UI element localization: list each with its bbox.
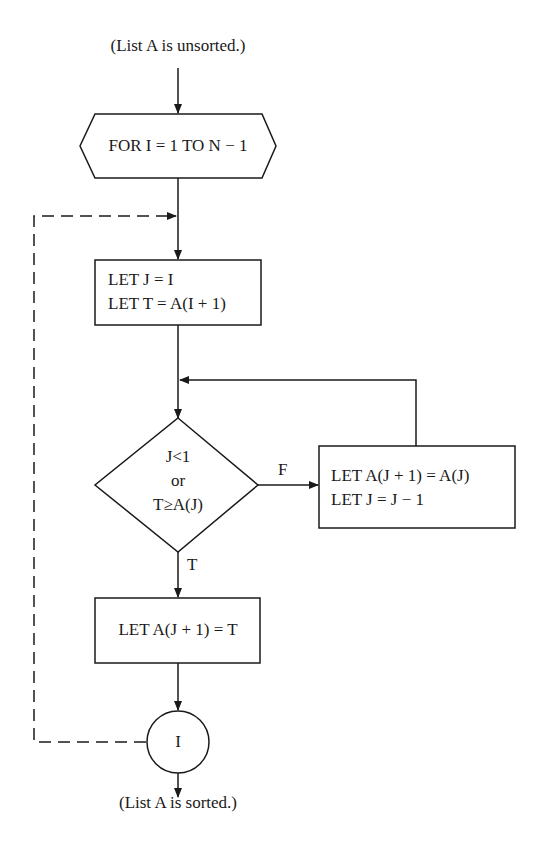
shift-block-rect [319,446,515,528]
insert-line-1: LET A(J + 1) = T [118,620,237,640]
shift-loopback-arrow [180,380,416,446]
start-label: (List A is unsorted.) [110,36,245,56]
flowchart-canvas: (List A is unsorted.) FOR I = 1 TO N − 1… [0,0,546,841]
connector-label: I [175,732,181,752]
shift-line-1: LET A(J + 1) = A(J) [331,466,469,486]
false-label: F [278,460,287,480]
true-label: T [187,555,197,575]
shift-line-2: LET J = J − 1 [331,490,424,510]
end-label: (List A is sorted.) [119,793,237,813]
loop-header-text: FOR I = 1 TO N − 1 [109,136,248,156]
flowchart-shapes [0,0,546,841]
decision-line-2: or [171,471,185,491]
init-line-1: LET J = I [108,270,173,290]
init-line-2: LET T = A(I + 1) [108,294,226,314]
decision-line-3: T≥A(J) [153,495,203,515]
decision-line-1: J<1 [166,447,191,467]
